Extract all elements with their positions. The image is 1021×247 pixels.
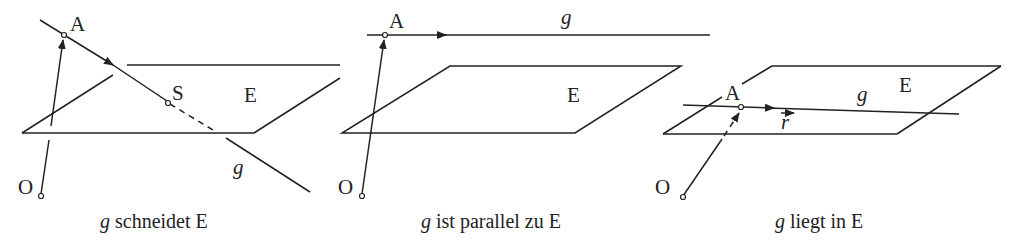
position-vector-oa <box>362 40 384 194</box>
plane-e <box>663 66 1001 134</box>
line-g <box>40 20 310 192</box>
label-o: O <box>18 175 33 199</box>
caption-intersects: g schneidet E <box>100 210 208 233</box>
point-a <box>383 33 388 38</box>
point-o <box>39 194 44 199</box>
panel-intersects: A S E g O g schneidet E <box>18 12 340 233</box>
label-g: g <box>561 5 572 29</box>
label-e: E <box>567 83 580 107</box>
point-o <box>360 194 365 199</box>
label-g: g <box>233 155 244 179</box>
label-g: g <box>857 82 868 106</box>
point-s <box>166 101 171 106</box>
label-a: A <box>389 9 405 33</box>
point-o <box>681 195 686 200</box>
plane-e <box>342 66 681 133</box>
position-vector-oa <box>41 140 49 194</box>
label-s: S <box>172 81 184 105</box>
label-a: A <box>725 81 741 105</box>
point-a <box>739 105 744 110</box>
panel-lies-in: A g E r O g liegt in E <box>655 66 1001 233</box>
direction-vector-r: r <box>781 110 794 134</box>
line-g <box>683 105 959 114</box>
label-e: E <box>244 83 257 107</box>
caption-lies-in: g liegt in E <box>775 210 863 233</box>
label-a: A <box>70 12 86 36</box>
label-e: E <box>899 73 912 97</box>
position-vector-oa <box>683 113 739 196</box>
label-o: O <box>655 175 670 199</box>
point-a <box>62 33 67 38</box>
line-plane-diagram: A S E g O g schneidet E A g E O g ist pa… <box>0 0 1021 247</box>
caption-parallel: g ist parallel zu E <box>421 210 561 233</box>
label-o: O <box>338 175 353 199</box>
